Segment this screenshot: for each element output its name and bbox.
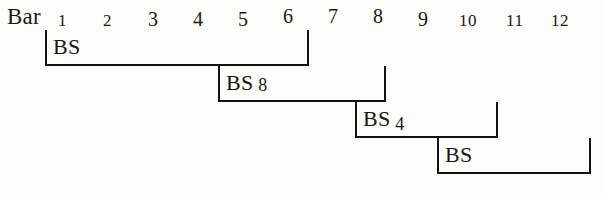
bracket-2-label: BS 8 <box>226 71 268 96</box>
bracket-4-label-text: BS <box>445 142 473 167</box>
bracket-1 <box>45 30 309 66</box>
bracket-1-label: BS <box>53 35 81 59</box>
bar-number-6: 6 <box>283 4 294 29</box>
bar-number-3: 3 <box>148 7 159 32</box>
bar-number-8: 8 <box>373 4 384 29</box>
bracket-4-label: BS <box>445 143 473 167</box>
bar-row-label: Bar <box>7 4 41 29</box>
bracket-3-label-number: 4 <box>391 114 405 134</box>
bracket-2-label-number: 8 <box>254 75 268 95</box>
bar-structure-diagram: Bar 123456789101112 BSBS 8BS 4BS <box>0 0 605 197</box>
bracket-3-label-text: BS <box>363 106 391 131</box>
bar-number-9: 9 <box>418 7 429 32</box>
bracket-1-label-text: BS <box>53 34 81 59</box>
bar-number-12: 12 <box>551 8 569 33</box>
bracket-3-label: BS 4 <box>363 107 405 132</box>
bracket-2-label-text: BS <box>226 70 254 95</box>
bar-number-7: 7 <box>328 4 339 29</box>
bar-number-5: 5 <box>238 7 249 32</box>
bar-number-11: 11 <box>506 8 524 33</box>
bar-number-10: 10 <box>459 8 477 33</box>
bar-number-4: 4 <box>193 7 204 32</box>
